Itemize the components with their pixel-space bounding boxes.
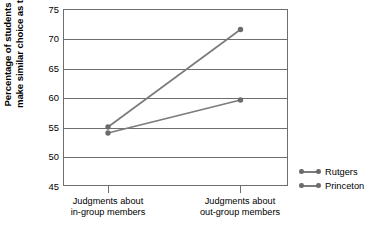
chart-figure: Percentage of students estimated to make… — [0, 0, 387, 238]
legend-item-rutgers: Rutgers — [299, 166, 385, 177]
y-tick-50: 50 — [39, 152, 59, 161]
x-axis-label-ingroup: Judgments about in-group members — [48, 196, 168, 218]
x-axis-label-outgroup-line1: Judgments about — [180, 196, 300, 207]
legend-label-princeton: Princeton — [321, 181, 364, 191]
y-tick-60: 60 — [39, 93, 59, 102]
x-axis-label-ingroup-line1: Judgments about — [48, 196, 168, 207]
legend-item-princeton: Princeton — [299, 180, 385, 191]
x-axis-label-ingroup-line2: in-group members — [48, 207, 168, 218]
data-point-princeton-ingroup — [105, 130, 110, 135]
series-line-rutgers — [108, 30, 241, 128]
series-layer — [63, 9, 289, 187]
x-axis-label-outgroup-line2: out-group members — [180, 207, 300, 218]
data-point-princeton-outgroup — [238, 97, 243, 102]
y-axis-label: Percentage of students estimated to make… — [2, 0, 25, 114]
x-tickmark-ingroup — [108, 186, 109, 193]
y-tick-55: 55 — [39, 123, 59, 132]
x-tickmark-outgroup — [240, 186, 241, 193]
y-tick-75: 75 — [39, 5, 59, 14]
legend-marker-icon-princeton — [299, 181, 321, 190]
series-line-princeton — [108, 100, 241, 133]
data-point-rutgers-outgroup — [238, 27, 243, 32]
y-tick-65: 65 — [39, 64, 59, 73]
y-tick-45: 45 — [39, 182, 59, 191]
x-axis-label-outgroup: Judgments about out-group members — [180, 196, 300, 218]
legend-marker-icon-rutgers — [299, 167, 321, 176]
y-tick-70: 70 — [39, 34, 59, 43]
legend-label-rutgers: Rutgers — [321, 167, 358, 177]
chart-legend: Rutgers Princeton — [299, 166, 385, 194]
data-point-rutgers-ingroup — [105, 124, 110, 129]
